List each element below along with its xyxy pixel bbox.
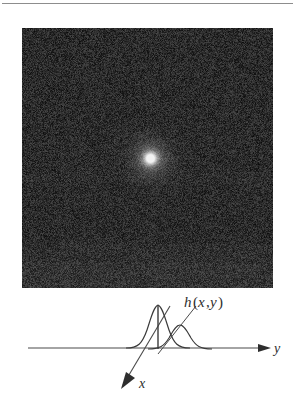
figure-root: y x h ( x , y ) [0, 0, 295, 398]
function-label-x: x [197, 294, 205, 310]
top-horizontal-rule [2, 3, 293, 4]
noise-image-canvas [22, 28, 273, 288]
psf-schematic-diagram: y x h ( x , y ) [0, 292, 295, 398]
function-label-h: h [184, 294, 192, 310]
x-axis-arrowhead [121, 372, 135, 389]
x-axis-label: x [138, 376, 146, 391]
function-label-group: h ( x , y ) [184, 294, 223, 311]
function-label-y: y [208, 294, 217, 310]
noise-image-panel [22, 28, 273, 288]
diagram-svg: y x h ( x , y ) [0, 292, 295, 398]
y-axis-label: y [272, 341, 281, 356]
y-axis-arrowhead [258, 344, 271, 352]
function-label-paren-close: ) [218, 294, 223, 311]
